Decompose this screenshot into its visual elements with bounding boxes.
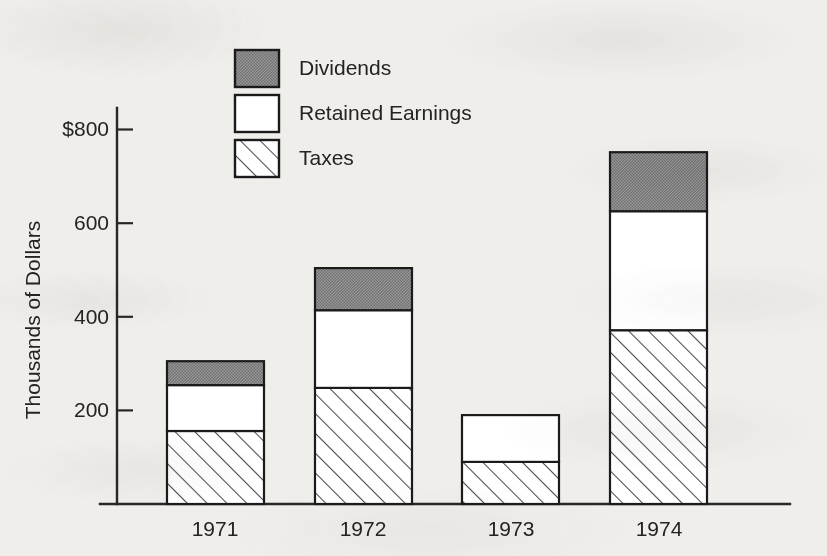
y-tick-label-800: $800 [62,117,109,140]
legend-item-retained-earnings: Retained Earnings [235,95,472,132]
legend-item-taxes: Taxes [235,140,354,177]
bar-segment-dividends-1971 [167,361,264,385]
bar-segment-dividends-1974 [610,152,707,211]
legend-item-dividends: Dividends [235,50,391,87]
legend-swatch-retained-earnings [235,95,279,132]
y-tick-label-600: 600 [74,211,109,234]
bar-segment-retained-1973 [462,415,559,462]
x-tick-labels: 1971 1972 1973 1974 [192,517,683,540]
y-axis-title: Thousands of Dollars [21,221,44,419]
bar-group-1972 [315,268,412,504]
y-tick-label-400: 400 [74,305,109,328]
y-tick-labels: $800 600 400 200 [62,117,109,421]
bar-group-1973 [462,415,559,504]
x-tick-label-1973: 1973 [488,517,535,540]
bar-group-1974 [610,152,707,504]
bar-chart: $800 600 400 200 Thousands of Dollars [0,0,827,556]
legend-label-dividends: Dividends [299,56,391,79]
chart-canvas: $800 600 400 200 Thousands of Dollars [0,0,827,556]
bar-segment-taxes-1973 [462,462,559,504]
x-tick-label-1972: 1972 [340,517,387,540]
legend-label-taxes: Taxes [299,146,354,169]
bar-segment-taxes-1972 [315,388,412,504]
bar-segment-retained-1971 [167,385,264,431]
chart-legend: Dividends Retained Earnings Taxes [235,50,472,177]
bar-segment-retained-1972 [315,310,412,388]
legend-swatch-taxes [235,140,279,177]
bar-segment-taxes-1974 [610,330,707,504]
legend-label-retained-earnings: Retained Earnings [299,101,472,124]
bar-segment-retained-1974 [610,211,707,330]
bar-segment-taxes-1971 [167,431,264,504]
y-tick-label-200: 200 [74,398,109,421]
legend-swatch-dividends [235,50,279,87]
bar-group-1971 [167,361,264,504]
x-tick-label-1974: 1974 [636,517,683,540]
x-tick-label-1971: 1971 [192,517,239,540]
bar-segment-dividends-1972 [315,268,412,310]
